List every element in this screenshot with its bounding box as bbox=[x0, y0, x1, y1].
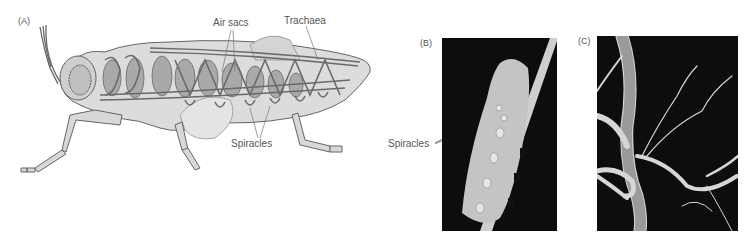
tracheae-illustration bbox=[597, 36, 738, 231]
tracheae-micrograph bbox=[597, 36, 738, 231]
caterpillar-illustration bbox=[442, 38, 557, 231]
antennae bbox=[40, 25, 61, 84]
callout-spiracles-a: Spiracles bbox=[231, 138, 272, 149]
callout-trachaea: Trachaea bbox=[284, 15, 326, 26]
caterpillar-photo bbox=[442, 38, 557, 231]
callout-air-sacs: Air sacs bbox=[213, 17, 249, 28]
callout-spiracles-b: Spiracles bbox=[388, 138, 429, 149]
panel-b-label: (B) bbox=[420, 38, 432, 48]
panel-c-label: (C) bbox=[578, 36, 591, 46]
